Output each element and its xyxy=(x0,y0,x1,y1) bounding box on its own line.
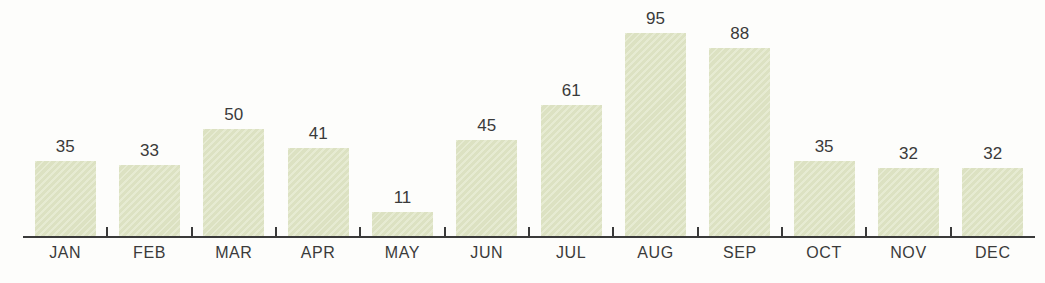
bar-value-label: 35 xyxy=(56,137,75,157)
bar-value-label: 41 xyxy=(309,124,328,144)
x-axis-tick-label: MAY xyxy=(360,244,444,262)
bar-slot: 95 xyxy=(613,0,697,236)
x-axis-tick-label: AUG xyxy=(613,244,697,262)
bar xyxy=(119,165,180,236)
bar xyxy=(709,48,770,236)
bar xyxy=(35,161,96,236)
bar-value-label: 33 xyxy=(140,141,159,161)
bar-value-label: 32 xyxy=(983,144,1002,164)
bar-value-label: 95 xyxy=(646,9,665,29)
bar-slot: 50 xyxy=(192,0,276,236)
bar-value-label: 61 xyxy=(562,81,581,101)
bar-slot: 32 xyxy=(951,0,1035,236)
plot-area: 353350411145619588353232 xyxy=(23,0,1035,238)
x-axis-tick-label: DEC xyxy=(951,244,1035,262)
bar-value-label: 45 xyxy=(477,116,496,136)
bar xyxy=(625,33,686,236)
bar xyxy=(794,161,855,236)
x-axis-tick-label: FEB xyxy=(107,244,191,262)
bar-slot: 41 xyxy=(276,0,360,236)
bar xyxy=(203,129,264,236)
x-axis-tick-label: APR xyxy=(276,244,360,262)
x-axis-tick-label: NOV xyxy=(866,244,950,262)
bar xyxy=(456,140,517,236)
bar-slot: 88 xyxy=(698,0,782,236)
x-axis-tick-label: JUL xyxy=(529,244,613,262)
bar-slot: 11 xyxy=(360,0,444,236)
x-axis-tick-label: JUN xyxy=(445,244,529,262)
x-axis-tick-label: JAN xyxy=(23,244,107,262)
bar-value-label: 35 xyxy=(815,137,834,157)
x-axis-tick-label: OCT xyxy=(782,244,866,262)
bar-slot: 35 xyxy=(782,0,866,236)
bar xyxy=(372,212,433,236)
bar-slot: 61 xyxy=(529,0,613,236)
x-labels-row: JANFEBMARAPRMAYJUNJULAUGSEPOCTNOVDEC xyxy=(23,244,1035,262)
bar-slot: 45 xyxy=(445,0,529,236)
bar-chart: 353350411145619588353232 JANFEBMARAPRMAY… xyxy=(0,0,1045,283)
bar-slot: 33 xyxy=(107,0,191,236)
x-axis-line xyxy=(23,236,1035,238)
bar xyxy=(288,148,349,236)
bar-slot: 32 xyxy=(866,0,950,236)
x-axis-tick-label: SEP xyxy=(698,244,782,262)
bar-value-label: 50 xyxy=(224,105,243,125)
bar xyxy=(541,105,602,236)
bar-value-label: 88 xyxy=(730,24,749,44)
bar-value-label: 32 xyxy=(899,144,918,164)
bar xyxy=(962,168,1023,236)
bar-slot: 35 xyxy=(23,0,107,236)
x-axis-tick-label: MAR xyxy=(192,244,276,262)
bar xyxy=(878,168,939,236)
bar-value-label: 11 xyxy=(394,188,412,208)
bars-row: 353350411145619588353232 xyxy=(23,0,1035,236)
